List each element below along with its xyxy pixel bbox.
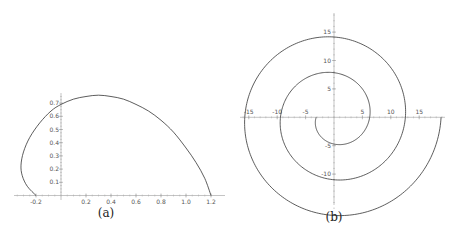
a-y-tick-label: 0.2	[49, 165, 59, 172]
b-y-tick-label: 10	[323, 57, 331, 64]
figure: -0.20.20.40.60.81.01.2 0.10.20.30.40.50.…	[0, 0, 457, 240]
b-x-tick-label: 5	[360, 108, 364, 115]
a-x-tick-label: 0.8	[156, 198, 166, 205]
b-x-tick-label: 15	[415, 108, 423, 115]
a-x-tick-label: 1.2	[206, 198, 216, 205]
a-y-tick-label: 0.1	[49, 178, 59, 185]
a-x-tick-label: -0.2	[30, 198, 42, 205]
panel-b-plot: -15-10-551015 -10-551015 (b)	[240, 13, 445, 224]
a-y-tick-label: 0.3	[49, 152, 59, 159]
a-x-tick-label: 0.6	[131, 198, 141, 205]
panel-a-plot: -0.20.20.40.60.81.01.2 0.10.20.30.40.50.…	[14, 93, 225, 220]
b-y-tick-label: 5	[327, 85, 331, 92]
caption-a: (a)	[98, 206, 115, 220]
b-x-tick-label: 10	[387, 108, 395, 115]
a-x-tick-label: 0.2	[81, 198, 91, 205]
a-y-tick-label: 0.4	[49, 139, 59, 146]
b-y-tick-label: -10	[321, 170, 331, 177]
a-y-tick-label: 0.5	[49, 126, 59, 133]
b-x-tick-label: -5	[303, 108, 309, 115]
a-x-tick-label: 0.4	[106, 198, 116, 205]
a-y-tick-label: 0.7	[49, 99, 59, 106]
a-x-tick-label: 1.0	[181, 198, 191, 205]
caption-b: (b)	[325, 210, 342, 224]
a-y-tick-label: 0.6	[49, 112, 59, 119]
b-y-tick-label: 15	[323, 28, 331, 35]
b-spiral-curve	[245, 37, 441, 216]
